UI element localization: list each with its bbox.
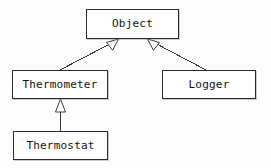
- class-box-object[interactable]: Object: [86, 9, 179, 39]
- edge-line: [60, 42, 115, 71]
- edge-thermostat-to-thermometer: [56, 99, 66, 131]
- hollow-triangle-arrowhead-icon: [107, 39, 119, 50]
- uml-class-diagram: Object Thermometer Logger Thermostat: [0, 0, 271, 168]
- class-name-thermometer: Thermometer: [22, 79, 97, 91]
- class-name-thermostat: Thermostat: [26, 140, 94, 152]
- class-name-logger: Logger: [189, 79, 230, 91]
- hollow-triangle-arrowhead-icon: [56, 99, 66, 112]
- hollow-triangle-arrowhead-icon: [148, 39, 160, 50]
- class-box-thermostat[interactable]: Thermostat: [13, 131, 108, 160]
- edge-logger-to-object: [148, 39, 207, 70]
- edge-thermometer-to-object: [60, 39, 119, 70]
- edge-line: [152, 42, 206, 71]
- class-box-logger[interactable]: Logger: [162, 70, 256, 99]
- class-box-thermometer[interactable]: Thermometer: [12, 70, 108, 99]
- class-name-object: Object: [112, 18, 153, 30]
